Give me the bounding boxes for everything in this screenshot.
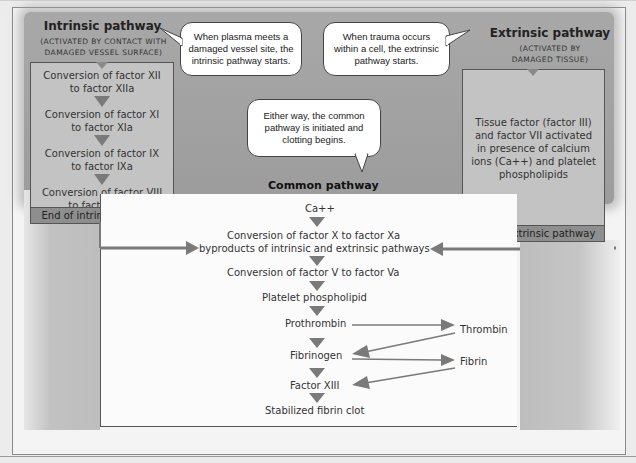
right-arrow-icon (186, 241, 199, 255)
bubble-tail (446, 30, 470, 46)
right-arrow-icon (441, 354, 455, 366)
bubble-tail (160, 28, 182, 46)
fibrin-to-factor-xiii-line (365, 368, 455, 383)
left-arrow-icon (352, 376, 370, 389)
thrombin-to-fibrinogen-line (365, 333, 455, 352)
left-arrow-icon (430, 242, 443, 256)
bubble-tail (355, 154, 368, 172)
fibrinogen-to-fibrin-line (352, 359, 442, 360)
left-arrow-icon (352, 345, 370, 358)
connector-arrows (0, 0, 636, 463)
bottom-border (0, 456, 636, 457)
right-arrow-icon (441, 319, 455, 331)
